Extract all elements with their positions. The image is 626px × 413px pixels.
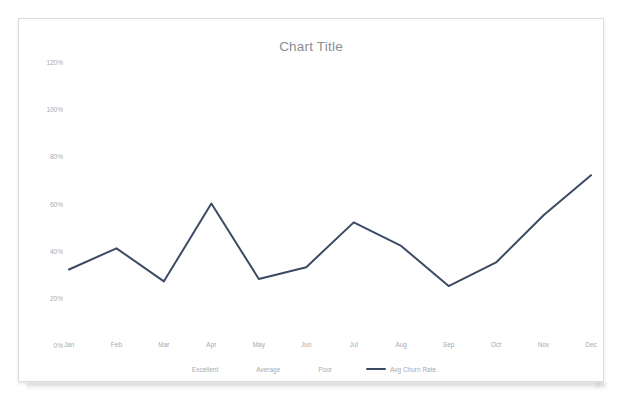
line-series-svg: [19, 19, 605, 383]
plot-area: 120%100%80%60%40%20%0% JanFebMarAprMayJu…: [19, 19, 605, 383]
legend-item[interactable]: Average: [252, 366, 280, 373]
x-tick-label: Sep: [443, 341, 455, 348]
x-tick-label: Mar: [158, 341, 169, 348]
x-tick-label: Jul: [350, 341, 358, 348]
chart-card: Chart Title 120%100%80%60%40%20%0% JanFe…: [18, 18, 604, 382]
x-tick-label: Aug: [395, 341, 407, 348]
legend-label: Average: [256, 366, 280, 373]
chart-legend: ExcellentAveragePoorAvg Churn Rate: [19, 361, 605, 377]
x-tick-label: May: [253, 341, 265, 348]
x-tick-label: Jan: [64, 341, 74, 348]
legend-item[interactable]: Poor: [314, 366, 332, 373]
legend-item[interactable]: Excellent: [188, 366, 218, 373]
x-tick-label: Jun: [301, 341, 311, 348]
series-line-avg-churn-rate: [69, 175, 591, 286]
legend-item[interactable]: Avg Churn Rate: [366, 366, 436, 373]
x-tick-label: Apr: [206, 341, 216, 348]
x-tick-label: Oct: [491, 341, 501, 348]
legend-label: Poor: [318, 366, 332, 373]
legend-line-swatch-icon: [366, 368, 386, 370]
x-tick-label: Nov: [538, 341, 550, 348]
x-tick-label: Feb: [111, 341, 122, 348]
legend-label: Avg Churn Rate: [390, 366, 436, 373]
x-tick-label: Dec: [585, 341, 597, 348]
legend-label: Excellent: [192, 366, 218, 373]
card-drop-shadow: [26, 383, 606, 390]
x-axis: JanFebMarAprMayJunJulAugSepOctNovDec: [19, 341, 605, 355]
